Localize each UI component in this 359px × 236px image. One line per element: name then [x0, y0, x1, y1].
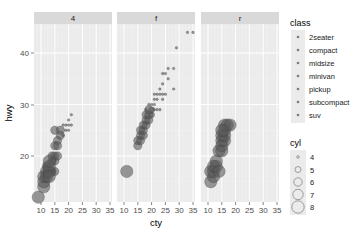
data-point — [161, 83, 164, 86]
data-point — [70, 114, 73, 117]
legend-class: class 2seatercompactmidsizeminivanpickup… — [290, 18, 350, 123]
x-tick-label: 25 — [245, 206, 254, 215]
data-point — [153, 98, 156, 101]
legend-class-item: pickup — [309, 85, 331, 94]
x-tick-label: 35 — [106, 206, 115, 215]
data-point — [175, 47, 178, 50]
x-tick-label: 15 — [50, 206, 59, 215]
facet-strip-label: r — [239, 14, 242, 23]
x-tick-label: 15 — [133, 206, 142, 215]
data-point — [121, 165, 133, 177]
data-point — [62, 124, 65, 127]
y-axis-title: hwy — [3, 104, 14, 121]
legend-key-point — [297, 88, 300, 91]
data-point — [43, 170, 55, 182]
data-point — [156, 108, 159, 111]
legend-key-point — [297, 62, 300, 65]
legend-class-item: compact — [309, 46, 338, 55]
data-point — [56, 131, 64, 139]
x-axis: 101520253035101520253035101520253035 — [37, 202, 282, 215]
legend-class-title: class — [290, 18, 311, 28]
x-tick-label: 25 — [78, 206, 87, 215]
legend-key-point — [297, 49, 300, 52]
data-point — [65, 129, 68, 132]
y-tick-label: 20 — [20, 152, 29, 161]
legend-class-item: 2seater — [309, 33, 335, 42]
data-point — [145, 105, 153, 113]
x-tick-label: 10 — [204, 206, 213, 215]
x-tick-label: 30 — [259, 206, 268, 215]
legend-key-point — [297, 75, 300, 78]
legend-class-item: suv — [309, 111, 321, 120]
legend-cyl-title: cyl — [290, 138, 301, 148]
y-axis: 40 30 20 — [20, 49, 34, 161]
facet-strip-label: 4 — [71, 14, 76, 23]
data-point — [156, 93, 159, 96]
facet-panels: 4fr — [32, 12, 279, 203]
data-point — [167, 77, 170, 80]
data-point — [53, 142, 61, 150]
legend-cyl-item: 8 — [310, 203, 314, 212]
legend-cyl-item: 4 — [310, 153, 314, 162]
legend-cyl-item: 5 — [310, 166, 314, 175]
legend-cyl-item: 7 — [310, 191, 314, 200]
data-point — [153, 93, 156, 96]
data-point — [153, 103, 156, 106]
data-point — [67, 124, 70, 127]
data-point — [213, 165, 225, 177]
data-point — [167, 67, 170, 70]
x-tick-label: 20 — [64, 206, 73, 215]
data-point — [150, 103, 153, 106]
legend-key-point — [297, 101, 300, 104]
data-point — [67, 129, 70, 132]
data-point — [65, 124, 68, 127]
legend-key-size — [297, 156, 300, 159]
legend-key-size — [293, 189, 303, 199]
legend-key-point — [297, 114, 300, 117]
data-point — [164, 72, 167, 75]
y-tick-label: 40 — [20, 49, 29, 58]
x-tick-label: 20 — [147, 206, 156, 215]
legend-cyl: cyl 45678 — [290, 138, 314, 215]
data-point — [192, 31, 195, 34]
data-point — [43, 155, 55, 167]
x-tick-label: 10 — [37, 206, 46, 215]
x-tick-label: 10 — [120, 206, 129, 215]
y-tick-label: 30 — [20, 101, 29, 110]
data-point — [186, 31, 189, 34]
legend-cyl-item: 6 — [310, 178, 314, 187]
data-point — [172, 88, 175, 91]
legend-class-item: subcompact — [309, 98, 350, 107]
data-point — [70, 124, 73, 127]
data-point — [161, 93, 164, 96]
legend-key-size — [294, 178, 302, 186]
faceted-scatter-chart: 4fr 40 30 20 hwy 10152025303510152025303… — [0, 0, 359, 236]
legend-class-item: minivan — [309, 72, 335, 81]
legend-class-item: midsize — [309, 59, 334, 68]
data-point — [216, 124, 228, 136]
data-point — [172, 67, 175, 70]
data-point — [159, 108, 162, 111]
data-point — [156, 98, 159, 101]
data-point — [161, 98, 164, 101]
x-tick-label: 25 — [161, 206, 170, 215]
x-tick-label: 35 — [273, 206, 282, 215]
x-tick-label: 35 — [189, 206, 198, 215]
x-tick-label: 30 — [175, 206, 184, 215]
x-tick-label: 20 — [231, 206, 240, 215]
data-point — [159, 88, 162, 91]
facet-panel-4: 4 — [32, 12, 112, 203]
data-point — [67, 119, 70, 122]
legend-key-size — [292, 201, 304, 213]
legend-key-point — [297, 36, 300, 39]
data-point — [159, 93, 162, 96]
x-tick-label: 30 — [92, 206, 101, 215]
x-axis-title: cty — [150, 217, 162, 228]
data-point — [164, 93, 167, 96]
facet-panel-f: f — [117, 12, 195, 202]
data-point — [161, 72, 164, 75]
legend-key-size — [295, 167, 301, 173]
facet-panel-r: r — [201, 12, 279, 202]
x-tick-label: 15 — [217, 206, 226, 215]
